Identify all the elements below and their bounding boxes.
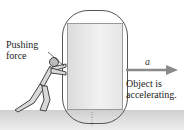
object-accelerating-label: Object is accelerating. [126,78,177,100]
object-label-line1: Object is [126,78,177,89]
pushing-force-label: Pushing force [6,39,38,61]
pushing-label-line1: Pushing [6,39,38,50]
object-label-line2: accelerating. [126,89,177,100]
pushing-label-line2: force [6,50,38,61]
acceleration-symbol: a⃗ [145,56,158,67]
person-pushing-icon [15,58,66,113]
arrowhead-icon [166,65,178,75]
